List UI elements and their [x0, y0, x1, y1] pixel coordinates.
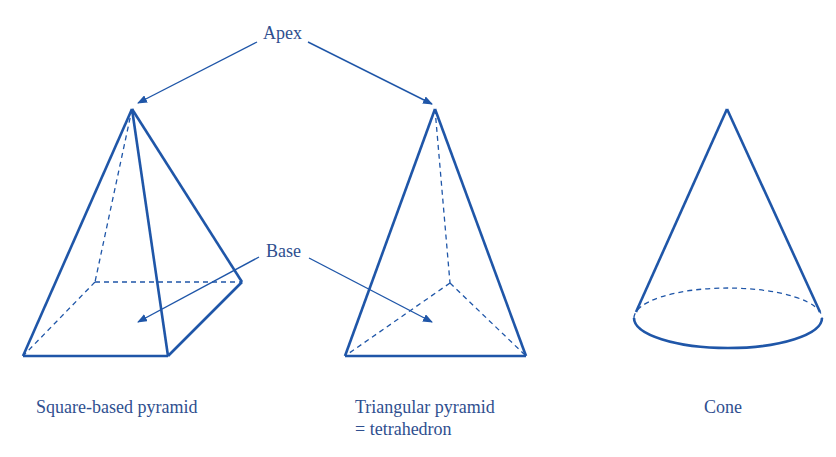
apex-label: Apex — [263, 22, 302, 44]
caption-cone: Cone — [704, 395, 742, 419]
base-arrow-right — [309, 258, 432, 322]
square-pyramid — [23, 109, 242, 356]
base-label: Base — [266, 240, 301, 262]
caption-triangular-pyramid: Triangular pyramid — [355, 395, 495, 419]
solids-diagram — [0, 0, 836, 457]
triangular-pyramid — [345, 109, 526, 356]
caption-square-pyramid: Square-based pyramid — [36, 395, 197, 419]
label-arrows — [138, 42, 432, 322]
cone — [634, 109, 822, 348]
apex-arrow-right — [308, 42, 432, 104]
caption-tetrahedron: = tetrahedron — [355, 417, 452, 441]
apex-arrow-left — [138, 42, 257, 103]
